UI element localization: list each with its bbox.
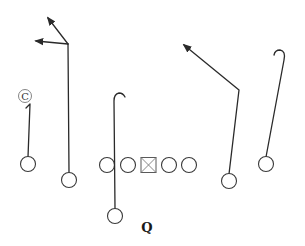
player-left-guard (121, 158, 136, 173)
player-right-slot (222, 174, 237, 189)
player-right-wideout (259, 157, 274, 172)
player-right-tackle (182, 158, 197, 173)
quarterback-label: Q (141, 220, 152, 235)
right-wideout-route (266, 50, 285, 157)
left-slot-route (36, 18, 69, 173)
player-running-back (108, 209, 123, 224)
play-diagram: C Q (0, 0, 305, 246)
right-slot-route (184, 45, 239, 174)
left-wideout-route (26, 104, 30, 157)
player-left-tackle (100, 158, 115, 173)
player-center (141, 158, 156, 173)
running-back-route (114, 93, 125, 209)
player-left-wideout (21, 157, 36, 172)
coverage-marker: C (19, 90, 32, 103)
player-left-slot (62, 173, 77, 188)
route-arrow-flat (36, 41, 68, 44)
route-arrow-deep (48, 18, 68, 44)
player-right-guard (162, 158, 177, 173)
coverage-marker-label: C (21, 91, 29, 102)
